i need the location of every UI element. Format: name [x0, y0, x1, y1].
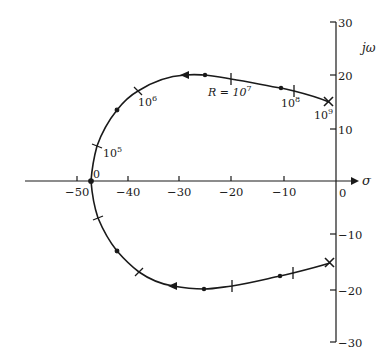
sigma-axis-label: σ [362, 173, 372, 188]
gain-label-exponent: 8 [295, 95, 300, 104]
locus-dot [202, 287, 205, 290]
x-tick-label: −10 [272, 185, 296, 199]
locus-dot [203, 73, 206, 76]
y-tick-label: −20 [338, 284, 362, 298]
y-tick-label: 10 [338, 123, 353, 137]
lower-branch-markers [93, 216, 293, 292]
locus-dot [278, 274, 281, 277]
locus-dot [115, 108, 119, 112]
gain-label-1e9: 109 [314, 107, 333, 122]
x-tick-label: 0 [339, 186, 346, 200]
sigma-axis [25, 176, 352, 181]
root-locus-plot: σ jω −50 −40 −30 −20 −10 0 30 20 10 −10 … [0, 0, 387, 361]
locus-dot [115, 249, 119, 253]
gain-label-1e6: 106 [138, 94, 157, 109]
gain-label-1e5: 105 [103, 145, 122, 160]
x-tick-label: −50 [65, 185, 89, 199]
gain-label-base: 10 [138, 96, 152, 109]
y-tick-label: −10 [338, 228, 362, 242]
gain-label-prefix: R = 10 [207, 86, 247, 99]
y-tick-label: −30 [338, 336, 362, 350]
gain-label-1e8: 108 [281, 95, 300, 110]
gain-tick-1e6 [134, 87, 142, 95]
gain-label-exponent: 5 [117, 145, 122, 154]
open-loop-pole-x-icon [324, 97, 333, 106]
gain-label-base: 10 [103, 147, 117, 160]
gain-label-base: 10 [314, 109, 328, 122]
direction-arrow-icon [168, 282, 177, 290]
gain-label-exponent: 6 [152, 94, 157, 103]
y-tick-label: 30 [338, 16, 353, 30]
y-tick-label: 20 [338, 69, 353, 83]
upper-branch-markers [89, 73, 294, 183]
x-tick-label: −20 [219, 185, 243, 199]
x-tick-label: −30 [167, 185, 191, 199]
direction-arrow-icon [180, 71, 189, 79]
jw-axis-label: jω [359, 41, 376, 55]
open-loop-pole-x-icon [325, 258, 334, 267]
gain-label-1e7: R = 107 [207, 84, 252, 99]
gain-label-exponent: 9 [328, 107, 333, 116]
x-tick-label: −40 [116, 185, 140, 199]
gain-label-zero: 0 [93, 168, 100, 181]
locus-dot [279, 86, 282, 89]
gain-label-exponent: 7 [247, 84, 252, 93]
jw-axis [330, 22, 336, 342]
sigma-axis-arrow-icon [351, 177, 359, 185]
gain-label-base: 10 [281, 97, 295, 110]
